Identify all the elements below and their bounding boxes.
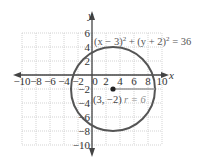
x-tick-label: 6 xyxy=(131,75,137,87)
x-tick-label: 10 xyxy=(157,75,169,87)
y-tick-label: −6 xyxy=(78,111,90,123)
y-axis-label: y xyxy=(87,9,93,21)
x-axis-label: x xyxy=(168,69,174,81)
y-tick-label: 4 xyxy=(85,41,91,53)
x-tick-label: −4 xyxy=(58,75,70,87)
x-tick-label: 0 xyxy=(92,75,98,87)
x-tick-label: 8 xyxy=(145,75,151,87)
y-tick-label: −2 xyxy=(78,83,90,95)
radius-label: r = 6 xyxy=(124,94,146,105)
x-tick-label: 4 xyxy=(117,75,123,87)
y-tick-label: 6 xyxy=(85,27,91,39)
y-tick-label: −10 xyxy=(73,139,91,151)
equation-label: (x − 3)2 + (y + 2)2 = 36 xyxy=(94,35,191,48)
y-tick-label: −8 xyxy=(78,125,90,137)
center-label: (3, −2) xyxy=(93,94,122,106)
x-tick-label: 2 xyxy=(103,75,109,87)
x-tick-label: −10 xyxy=(13,75,31,87)
y-tick-label: −4 xyxy=(78,97,90,109)
center-point xyxy=(110,86,115,91)
x-tick-label: −6 xyxy=(44,75,56,87)
circle-graph: −10−8−6−4−20246810642−2−4−6−8−10 x y (x … xyxy=(0,0,202,166)
x-tick-label: −8 xyxy=(30,75,42,87)
